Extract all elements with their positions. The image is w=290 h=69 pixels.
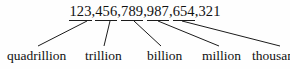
digit-group-billion: 789 bbox=[121, 3, 143, 21]
connector-line-billion bbox=[134, 21, 161, 46]
place-value-diagram: 123,456,789,987,654,321 quadrillion tril… bbox=[0, 0, 290, 69]
label-thousand: thousand bbox=[252, 48, 290, 64]
number-text: 123,456,789,987,654,321 bbox=[69, 4, 220, 19]
labels-row: quadrillion trillion billion million tho… bbox=[0, 48, 290, 66]
number-row: 123,456,789,987,654,321 bbox=[0, 3, 290, 19]
digit-group-quadrillion: 123 bbox=[69, 3, 91, 21]
connector-line-million bbox=[158, 21, 219, 46]
digit-group-thousand: 654 bbox=[173, 3, 195, 21]
label-trillion: trillion bbox=[85, 48, 122, 64]
label-billion: billion bbox=[147, 48, 182, 64]
connector-line-trillion bbox=[104, 21, 110, 46]
digit-group-trillion: 456 bbox=[95, 3, 117, 21]
connector-line-thousand bbox=[182, 21, 280, 46]
label-quadrillion: quadrillion bbox=[7, 48, 66, 64]
connector-line-quadrillion bbox=[38, 21, 87, 46]
label-million: million bbox=[202, 48, 241, 64]
digit-group-ones: 321 bbox=[198, 3, 220, 19]
digit-group-million: 987 bbox=[147, 3, 169, 21]
